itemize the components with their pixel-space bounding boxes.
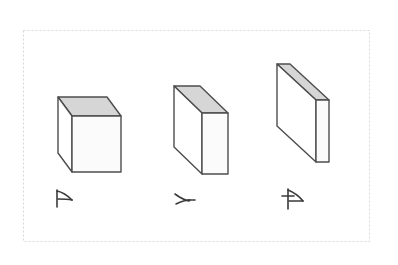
- shape-cube-solid[interactable]: [58, 97, 121, 172]
- slab-front-face: [202, 113, 228, 174]
- cube-front-face: [72, 116, 121, 172]
- plate-front-face: [316, 100, 329, 162]
- figure-canvas: A A A Three rectangular prisms of decrea…: [0, 0, 398, 265]
- prisms-figure: [0, 0, 398, 265]
